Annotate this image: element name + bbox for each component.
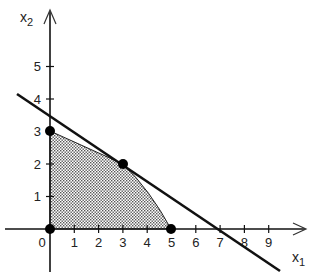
x-tick-label: 5 bbox=[168, 235, 175, 250]
x-tick-label: 3 bbox=[119, 235, 126, 250]
y-tick-label: 2 bbox=[34, 157, 41, 172]
x-tick-label: 4 bbox=[144, 235, 151, 250]
x-tick-label: 7 bbox=[216, 235, 223, 250]
vertex-point bbox=[166, 224, 176, 234]
x-tick-label: 9 bbox=[265, 235, 272, 250]
x-tick-label: 1 bbox=[71, 235, 78, 250]
origin-label: 0 bbox=[38, 235, 45, 250]
y-tick-label: 4 bbox=[34, 92, 41, 107]
feasible-region bbox=[50, 131, 171, 229]
y-tick-label: 3 bbox=[34, 124, 41, 139]
vertex-point bbox=[45, 224, 55, 234]
vertex-point bbox=[45, 126, 55, 136]
y-tick-label: 5 bbox=[34, 59, 41, 74]
x-axis-label: x1 bbox=[292, 249, 305, 268]
x-tick-label: 2 bbox=[95, 235, 102, 250]
y-axis-label: x2 bbox=[20, 9, 33, 28]
vertex-point bbox=[118, 159, 128, 169]
linear-programming-graph: 1 2 3 4 5 6 7 8 9 0 1 2 3 4 5 x2 x1 bbox=[0, 0, 314, 277]
x-tick-label: 6 bbox=[192, 235, 199, 250]
y-tick-label: 1 bbox=[34, 189, 41, 204]
